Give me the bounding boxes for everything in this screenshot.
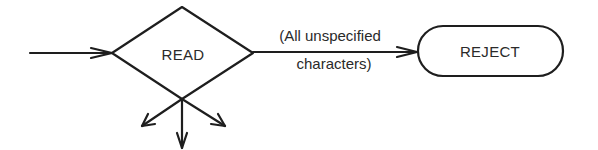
flowchart-diagram: READ REJECT (All unspecified characters) <box>0 0 598 150</box>
arrow-down-right <box>182 99 225 126</box>
read-node-label: READ <box>162 46 205 63</box>
edge-label-line1: (All unspecified <box>279 22 381 50</box>
arrow-down-left <box>142 99 182 126</box>
reject-node-label: REJECT <box>460 43 520 60</box>
edge-label-line2: characters) <box>296 50 371 78</box>
entry-arrow <box>30 48 112 58</box>
arrow-down <box>177 99 187 148</box>
